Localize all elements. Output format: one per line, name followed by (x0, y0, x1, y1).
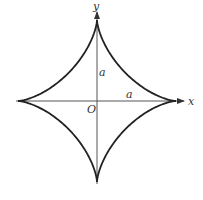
x-axis-label: x (188, 95, 195, 108)
astroid-diagram: y x O a a (0, 0, 203, 200)
horizontal-radius-label: a (126, 88, 133, 101)
y-axis-label: y (92, 0, 100, 13)
origin-label: O (87, 103, 96, 116)
vertical-radius-label: a (99, 66, 106, 79)
